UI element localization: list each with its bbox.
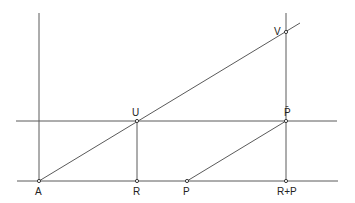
diagram-canvas: A R P R+P U P̄ V: [0, 0, 355, 203]
point-p-bar: [284, 119, 287, 122]
point-r: [135, 179, 138, 182]
diagram-svg: A R P R+P U P̄ V: [0, 0, 355, 203]
label-p-bar: P̄: [284, 106, 291, 118]
label-v: V: [274, 26, 281, 37]
point-v: [284, 30, 287, 33]
point-u: [135, 119, 138, 122]
point-a: [37, 179, 40, 182]
label-u: U: [132, 107, 139, 118]
label-r: R: [133, 186, 140, 197]
label-p: P: [183, 186, 190, 197]
diagonal-line-p-pbar: [187, 121, 286, 181]
point-p: [185, 179, 188, 182]
label-r-plus-p: R+P: [277, 186, 297, 197]
label-a: A: [35, 186, 42, 197]
diagonal-line-a-v: [39, 23, 300, 181]
point-r-plus-p: [284, 179, 287, 182]
